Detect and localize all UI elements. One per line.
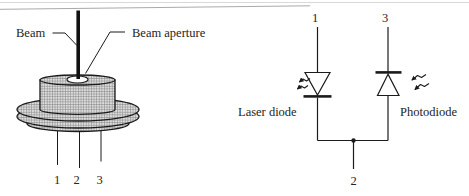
aperture-leader-line <box>86 32 126 74</box>
pin-label-3: 3 <box>96 173 102 187</box>
package-diagram: Beam Beam aperture 1 2 3 <box>16 11 206 188</box>
photodiode-symbol <box>376 27 430 141</box>
laser-diode-symbol <box>298 27 332 141</box>
incident-light-arrow-icon <box>412 75 426 81</box>
circuit-pin-3: 3 <box>382 11 388 25</box>
figure-canvas: Beam Beam aperture 1 2 3 1 3 <box>0 0 469 196</box>
beam-label: Beam <box>16 26 45 40</box>
emitted-light-arrow-icon <box>300 79 311 83</box>
beam-leader-line <box>53 33 78 46</box>
circuit-diagram: 1 3 2 Laser diode Photodiode <box>238 11 457 188</box>
incident-light-arrow-icon <box>415 84 429 90</box>
scan-line-dark <box>0 6 310 10</box>
pin-label-2: 2 <box>73 173 79 187</box>
beam-aperture-label: Beam aperture <box>132 26 206 40</box>
laser-diode-label: Laser diode <box>238 105 297 119</box>
pin-label-1: 1 <box>54 173 60 187</box>
figure: Beam Beam aperture 1 2 3 1 3 <box>0 0 469 196</box>
circuit-pin-1: 1 <box>312 11 318 25</box>
emitted-light-arrow-icon <box>298 86 309 90</box>
photodiode-triangle <box>378 74 400 95</box>
laser-diode-triangle <box>305 73 330 96</box>
circuit-pin-2: 2 <box>350 174 356 188</box>
photodiode-label: Photodiode <box>400 105 457 119</box>
